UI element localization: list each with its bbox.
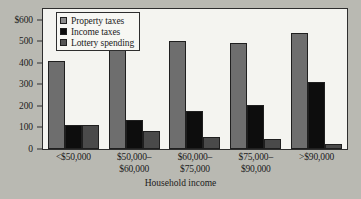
x-tick-label-line1: <$50,000 (56, 152, 91, 162)
y-tick-label: 500 (19, 36, 33, 46)
legend-item[interactable]: Property taxes (60, 15, 134, 26)
x-tick-label-line1: $60,000– (178, 152, 212, 162)
bar[interactable] (230, 43, 247, 149)
bar-group (165, 9, 226, 149)
x-tick-label: >$90,000 (286, 152, 347, 164)
y-tick-label: 400 (19, 58, 33, 68)
x-tick-label-line1: >$90,000 (299, 152, 334, 162)
legend-swatch-icon (60, 39, 67, 46)
x-axis-title: Household income (0, 178, 361, 188)
bar[interactable] (169, 41, 186, 149)
y-tick-mark (37, 84, 42, 85)
x-tick-label-line1: $50,000– (117, 152, 151, 162)
x-tick-label-line1: $75,000– (239, 152, 273, 162)
chart-screenshot: $6005004003002001000 <$50,000$50,000–$60… (0, 0, 361, 199)
x-tick-label: $60,000–$75,000 (165, 152, 226, 175)
legend-label: Lottery spending (71, 38, 134, 48)
bar[interactable] (65, 125, 82, 149)
x-tick-label-line2: $60,000 (104, 164, 165, 176)
legend-label: Income taxes (71, 27, 120, 37)
legend-swatch-icon (60, 17, 67, 24)
y-tick-mark (37, 62, 42, 63)
x-tick-label-line2: $90,000 (225, 164, 286, 176)
y-tick-label: $600 (14, 15, 33, 25)
bar[interactable] (247, 105, 264, 149)
bar[interactable] (82, 125, 99, 149)
bar[interactable] (264, 139, 281, 149)
x-tick-label: $75,000–$90,000 (225, 152, 286, 175)
x-tick-label-line2: $75,000 (165, 164, 226, 176)
bar-group (286, 9, 347, 149)
y-axis: $6005004003002001000 (0, 0, 42, 159)
legend-swatch-icon (60, 28, 67, 35)
legend-label: Property taxes (71, 16, 124, 26)
bar[interactable] (126, 120, 143, 149)
y-tick-mark (37, 127, 42, 128)
x-tick-label: $50,000–$60,000 (104, 152, 165, 175)
bar[interactable] (109, 41, 126, 149)
y-tick-label: 0 (28, 144, 33, 154)
bar[interactable] (203, 137, 220, 149)
bar[interactable] (186, 111, 203, 149)
y-tick-mark (37, 19, 42, 20)
y-tick-label: 100 (19, 122, 33, 132)
chart-legend: Property taxesIncome taxesLottery spendi… (56, 12, 140, 51)
y-tick-mark (37, 41, 42, 42)
y-tick-mark (37, 149, 42, 150)
bar[interactable] (325, 144, 342, 149)
bar[interactable] (143, 131, 160, 149)
y-tick-label: 200 (19, 101, 33, 111)
bar[interactable] (291, 33, 308, 149)
y-tick-mark (37, 105, 42, 106)
bar[interactable] (308, 82, 325, 149)
bar[interactable] (48, 61, 65, 149)
bar-group (225, 9, 286, 149)
legend-item[interactable]: Income taxes (60, 26, 134, 37)
y-tick-label: 300 (19, 79, 33, 89)
x-tick-label: <$50,000 (43, 152, 104, 164)
legend-item[interactable]: Lottery spending (60, 37, 134, 48)
